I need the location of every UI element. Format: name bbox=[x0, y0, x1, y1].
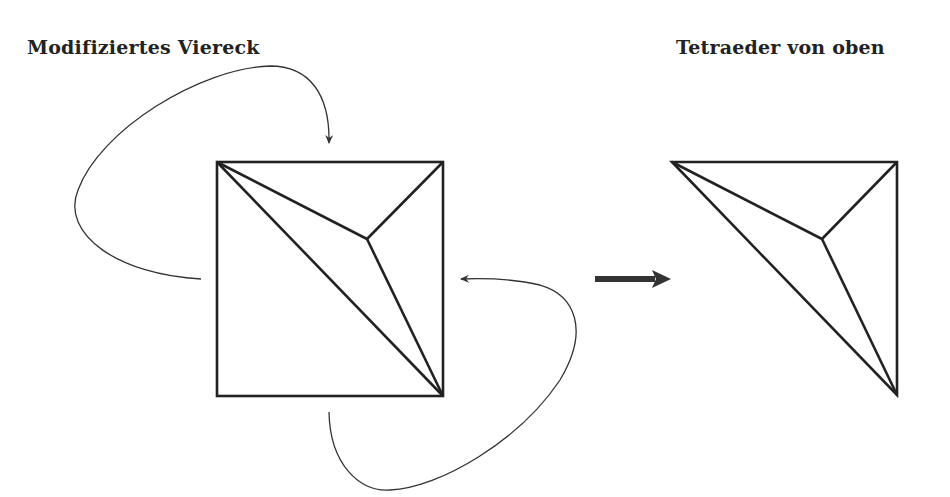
edge-to-center bbox=[217, 162, 367, 239]
curved-arrow-left-to-top bbox=[75, 66, 329, 279]
edge-to-apex bbox=[822, 239, 897, 395]
diagram-canvas bbox=[0, 0, 950, 497]
transition-arrow-icon bbox=[595, 270, 671, 288]
edge-to-apex bbox=[672, 162, 822, 239]
fold-arrows bbox=[75, 66, 576, 490]
edge-to-center bbox=[367, 162, 443, 239]
edge-to-center bbox=[367, 239, 443, 396]
modified-square-figure bbox=[217, 162, 443, 396]
edge-to-apex bbox=[822, 162, 897, 239]
tetrahedron-top-view-figure bbox=[672, 162, 897, 395]
curved-arrow-bottom-to-right bbox=[329, 279, 576, 490]
